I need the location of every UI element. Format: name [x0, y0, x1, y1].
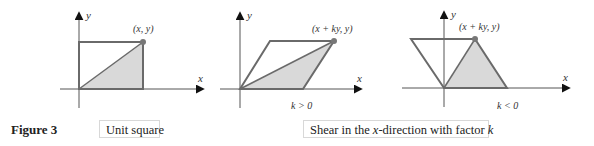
caption-unit-square: Unit square [99, 120, 160, 138]
figure-label: Figure 3 [11, 122, 57, 138]
caption-factor-k: k [488, 123, 494, 137]
y-axis-label: y [246, 9, 252, 21]
caption-shear: Shear in the x-direction with factor k [303, 120, 489, 138]
x-axis-label: x [197, 72, 203, 84]
point-dot [472, 36, 478, 42]
condition-label: k > 0 [291, 100, 312, 111]
shaded-triangle [444, 39, 507, 88]
x-axis-label: x [356, 72, 362, 84]
panel-unit-square: y x (x, y) [60, 9, 203, 108]
point-label: (x + ky, y) [459, 21, 500, 33]
caption-middle: -direction with factor [378, 123, 487, 137]
point-dot [331, 38, 337, 44]
point-dot [140, 39, 146, 45]
panel-shear-k-positive: y x (x + ky, y) k > 0 [220, 9, 362, 111]
condition-label: k < 0 [497, 100, 518, 111]
y-axis-label: y [450, 8, 456, 20]
caption-prefix: Shear in the [310, 123, 373, 137]
caption-text: Unit square [106, 123, 164, 137]
figure-canvas: y x (x, y) y x (x + ky, y) k > 0 y x (x … [0, 0, 594, 146]
y-axis-label: y [85, 9, 91, 21]
point-label: (x + ky, y) [312, 23, 353, 35]
point-label: (x, y) [133, 23, 154, 35]
panel-shear-k-negative: y x (x + ky, y) k < 0 [402, 8, 569, 111]
x-axis-label: x [562, 71, 568, 83]
